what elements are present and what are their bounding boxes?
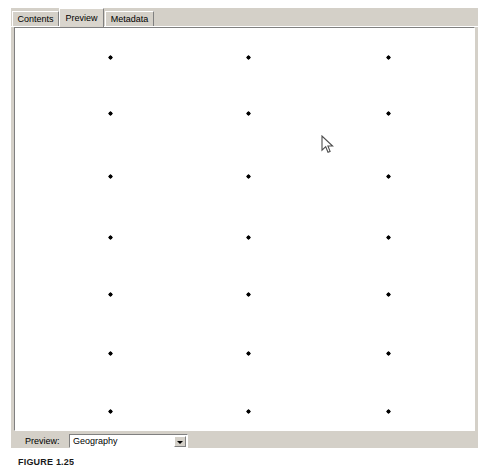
figure-caption: FIGURE 1.25 [18,457,74,466]
map-point-marker [246,55,251,60]
chevron-down-icon [177,441,183,444]
map-point-marker [386,174,391,179]
preview-combobox[interactable]: Geography [69,434,188,448]
map-point-marker [246,409,251,414]
preview-client-area[interactable] [14,27,475,431]
map-point-marker [108,292,113,297]
map-point-marker [386,111,391,116]
map-point-marker [386,55,391,60]
tab-metadata[interactable]: Metadata [105,11,154,27]
tab-contents[interactable]: Contents [12,11,59,27]
map-point-marker [246,174,251,179]
map-point-marker [246,235,251,240]
preview-selector-bar: Preview: Geography [14,434,475,448]
screenshot-root: Contents Preview Metadata Preview: Geogr… [0,0,492,466]
map-point-marker [108,409,113,414]
map-point-marker [386,409,391,414]
map-point-marker [246,111,251,116]
map-point-marker [386,292,391,297]
map-point-marker [108,351,113,356]
preview-combobox-button[interactable] [174,436,186,447]
map-point-marker [246,351,251,356]
map-point-marker [108,235,113,240]
map-point-marker [108,111,113,116]
map-point-marker [246,292,251,297]
map-point-marker [108,174,113,179]
map-point-marker [386,351,391,356]
preview-panel: Contents Preview Metadata Preview: Geogr… [11,8,478,448]
map-canvas[interactable] [15,28,474,430]
map-point-marker [386,235,391,240]
preview-combobox-value: Geography [73,435,118,448]
preview-label: Preview: [25,435,60,447]
tab-bar: Contents Preview Metadata [11,8,478,27]
tab-preview[interactable]: Preview [59,8,104,27]
map-point-marker [108,55,113,60]
